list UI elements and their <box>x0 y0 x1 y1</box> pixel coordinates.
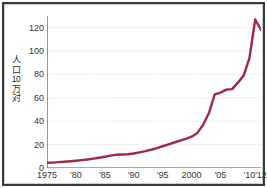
x-tick-label: '95 <box>157 170 169 180</box>
y-tick-label: 80 <box>24 69 44 79</box>
y-tick-label: 20 <box>24 140 44 150</box>
x-tick-label: 2000 <box>182 170 202 180</box>
chart-figure: 人 口 10 万 対 020406080100120 1975'80'85'90… <box>0 0 267 188</box>
x-tick-label: '12 <box>255 170 267 180</box>
data-line <box>47 20 261 163</box>
x-axis-ticks: 1975'80'85'90'952000'05'10'12 <box>47 170 261 184</box>
chart-frame: 人 口 10 万 対 020406080100120 1975'80'85'90… <box>2 2 265 186</box>
x-tick-label: 1975 <box>37 170 57 180</box>
x-tick-label: '05 <box>215 170 227 180</box>
plot-svg <box>47 16 261 168</box>
x-tick-label: '10 <box>244 170 256 180</box>
x-tick-label: '90 <box>128 170 140 180</box>
plot-area <box>47 16 261 168</box>
x-tick-label: '85 <box>99 170 111 180</box>
y-axis-ticks: 020406080100120 <box>22 16 44 168</box>
x-tick-label: '80 <box>70 170 82 180</box>
y-tick-label: 60 <box>24 93 44 103</box>
y-tick-label: 40 <box>24 116 44 126</box>
y-tick-label: 120 <box>24 23 44 33</box>
y-tick-label: 100 <box>24 46 44 56</box>
